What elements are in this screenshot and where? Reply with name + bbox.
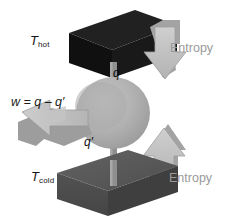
shaft-lower-highlight (110, 160, 113, 186)
t-cold-subscript: cold (39, 176, 54, 185)
label-heat-in: q (113, 67, 120, 79)
t-hot-symbol: T (30, 33, 38, 48)
label-t-cold: Tcold (31, 170, 54, 185)
label-work-equation: w = q – q′ (11, 96, 64, 109)
carnot-engine-diagram: Thot Tcold w = q – q′ q q′ Entropy Entro… (0, 0, 231, 221)
t-hot-subscript: hot (38, 40, 50, 49)
label-entropy-top: Entropy (170, 42, 213, 55)
label-heat-out: q′ (84, 136, 93, 148)
t-cold-symbol: T (31, 169, 39, 184)
label-t-hot: Thot (30, 34, 50, 49)
label-entropy-bottom: Entropy (169, 172, 212, 185)
shaft-lower-segment (110, 160, 117, 186)
